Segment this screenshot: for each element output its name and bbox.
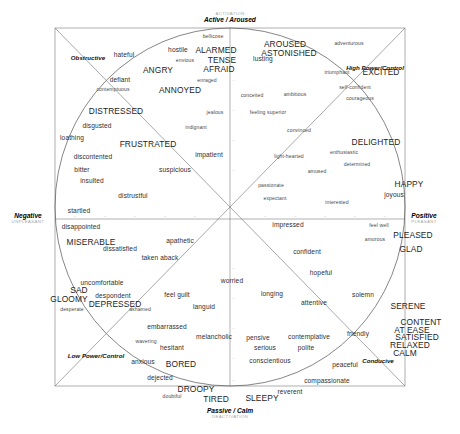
axis-tick: – [233, 108, 235, 112]
axis-label-right-text: Positive [411, 212, 436, 219]
axis-tick: – [264, 214, 266, 218]
emotion-term: amorous [365, 237, 386, 242]
axis-tick: – [233, 266, 235, 270]
emotion-term: triumphant [324, 70, 349, 75]
emotion-term: DISTRESSED [89, 107, 144, 115]
emotion-term: polite [298, 345, 314, 352]
axis-label-bottom-text: Passive / Calm [207, 407, 253, 414]
axis-label-left: Negative UNPLEASANT [12, 213, 45, 225]
emotion-term: BORED [166, 360, 196, 368]
emotion-term: hostile [168, 47, 188, 54]
emotion-term: peaceful [332, 362, 358, 369]
axis-tick: – [194, 214, 196, 218]
axis-label-top-text: Active / Aroused [204, 16, 256, 23]
emotion-term: distrustful [118, 193, 147, 200]
emotion-term: enraged [197, 78, 216, 83]
emotion-term: friendly [347, 331, 369, 338]
emotion-term: HAPPY [395, 180, 424, 188]
axis-sublabel-pleasant: PLEASANT [411, 220, 437, 225]
emotion-term: compassionate [304, 378, 350, 385]
emotion-term: suspicious [159, 167, 191, 174]
emotion-term: impressed [272, 222, 303, 229]
emotion-term: reverent [278, 389, 303, 396]
emotion-term: ALARMED [195, 46, 236, 54]
emotion-term: courageous [346, 96, 374, 101]
axis-tick: – [233, 78, 235, 82]
emotion-term: expectant [264, 196, 287, 201]
emotion-term: contemplative [288, 334, 330, 341]
emotion-term: longing [261, 291, 283, 298]
emotion-term: determined [344, 162, 370, 167]
emotion-term: startled [68, 208, 90, 215]
axis-tick: – [233, 296, 235, 300]
emotion-term: interested [325, 200, 348, 205]
emotion-term: serious [254, 345, 276, 352]
axis-tick: – [104, 214, 106, 218]
emotion-term: wavering [135, 339, 156, 344]
emotion-term: apathetic [166, 238, 194, 245]
emotion-term: ashamed [129, 307, 151, 312]
emotion-term: DROOPY [178, 385, 215, 393]
emotion-term: convinced [287, 128, 311, 133]
circumplex-affect-diagram: ACTIVATION Active / Aroused Passive / Ca… [0, 0, 460, 434]
emotion-term: conscientious [249, 358, 290, 365]
diagonal-label-conducive: Conducive [362, 357, 394, 364]
axis-tick: – [233, 326, 235, 330]
emotion-term: dissatisfied [103, 246, 137, 253]
emotion-term: joyous [384, 192, 404, 199]
emotion-term: hesitant [160, 345, 184, 352]
emotion-term: disappointed [62, 224, 101, 231]
emotion-term: defiant [110, 77, 131, 84]
emotion-term: enthusiastic [330, 150, 358, 155]
emotion-term: embarrassed [147, 324, 187, 331]
axis-tick: – [233, 168, 235, 172]
emotion-term: languid [193, 304, 215, 311]
emotion-term: discontented [74, 154, 113, 161]
emotion-term: loathing [60, 135, 84, 142]
emotion-term: FRUSTRATED [120, 140, 177, 148]
emotion-term: pensive [246, 335, 269, 342]
emotion-term: insulted [80, 178, 104, 185]
axis-tick: – [384, 214, 386, 218]
emotion-term: disgusted [82, 123, 111, 130]
emotion-term: GLOOMY [50, 295, 87, 303]
emotion-term: AFRAID [203, 65, 234, 73]
emotion-term: passionate [258, 183, 284, 188]
emotion-term: attentive [301, 300, 327, 307]
emotion-term: GLAD [399, 245, 422, 253]
axis-label-left-text: Negative [14, 212, 42, 219]
emotion-term: hateful [114, 52, 135, 59]
axis-label-bottom: Passive / Calm DEACTIVATION [207, 408, 253, 420]
emotion-term: desperate [60, 307, 84, 312]
emotion-term: feeling superior [250, 110, 286, 115]
diagonal-label-obstructive: Obstructive [71, 54, 105, 61]
emotion-term: feel guilt [164, 292, 190, 299]
axis-tick: – [324, 214, 326, 218]
emotion-term: indignant [185, 125, 207, 130]
emotion-term: adventurous [334, 41, 363, 46]
emotion-term: lusting [253, 56, 273, 63]
axis-label-top: ACTIVATION Active / Aroused [204, 12, 256, 24]
emotion-term: hopeful [310, 270, 332, 277]
emotion-term: amused [308, 169, 327, 174]
axis-sublabel-deactivation: DEACTIVATION [207, 415, 253, 420]
emotion-term: confident [293, 249, 321, 256]
emotion-term: feel well [369, 223, 388, 228]
axis-tick: – [164, 214, 166, 218]
emotion-term: PLEASED [393, 231, 432, 239]
emotion-term: melancholic [196, 334, 232, 341]
emotion-term: conceited [241, 93, 264, 98]
emotion-term: envious [176, 58, 194, 63]
emotion-term: EXCITED [363, 68, 400, 76]
axis-tick: – [233, 378, 235, 382]
emotion-term: TIRED [203, 395, 229, 403]
axis-tick: – [233, 356, 235, 360]
emotion-term: contemptuous [96, 87, 129, 92]
emotion-term: DELIGHTED [352, 138, 401, 146]
emotion-term: SLEEPY [245, 394, 278, 402]
emotion-term: jealous [207, 110, 224, 115]
emotion-term: taken aback [142, 255, 179, 262]
emotion-term: light-hearted [274, 154, 304, 159]
emotion-term: bellicose [203, 34, 224, 39]
axis-tick: – [233, 138, 235, 142]
